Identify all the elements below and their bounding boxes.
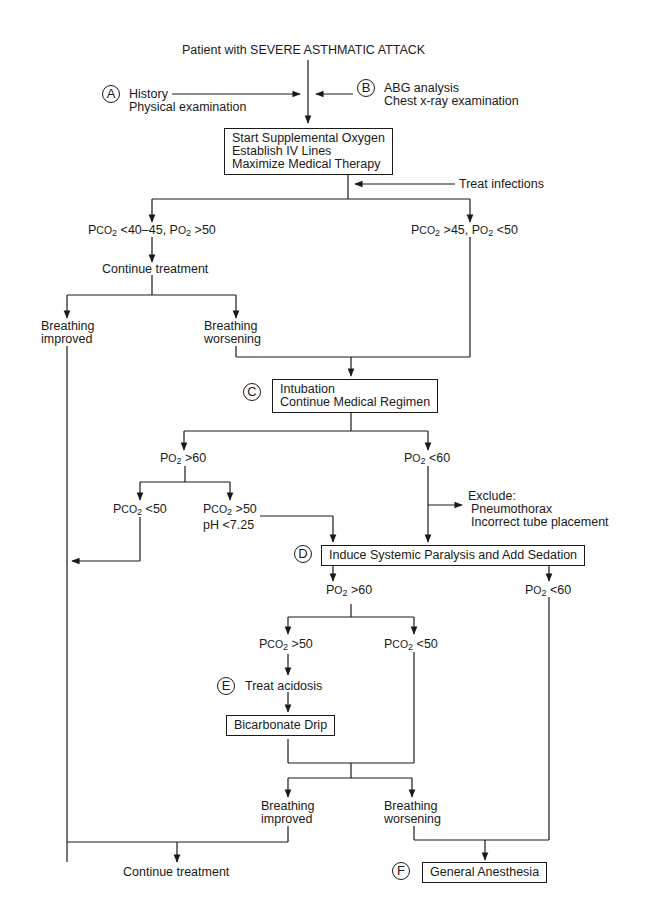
flowchart-title: Patient with SEVERE ASTHMATIC ATTACK xyxy=(182,44,425,57)
condition-pco2-lt-50-b: PCO2 <50 xyxy=(384,638,438,654)
box1-line3: Maximize Medical Therapy xyxy=(232,158,385,171)
condition-pco2-lt-50-a: PCO2 <50 xyxy=(113,503,167,519)
initial-management-box: Start Supplemental Oxygen Establish IV L… xyxy=(224,128,393,175)
condition-po2-lt-60-b: PO2 <60 xyxy=(525,584,571,600)
marker-d: D xyxy=(294,545,312,563)
exclude-list: Exclude: Pneumothorax Incorrect tube pla… xyxy=(468,490,609,529)
marker-c: C xyxy=(243,383,261,401)
condition-po2-lt-60-a: PO2 <60 xyxy=(404,452,450,468)
marker-e: E xyxy=(217,677,235,695)
condition-pco2-gt-50-ph: PCO2 >50 pH <7.25 xyxy=(203,503,257,532)
marker-b: B xyxy=(357,79,375,97)
condition-pco2-gt-45: PCO2 >45, PO2 <50 xyxy=(411,224,518,240)
condition-pco2-lt-40-45: PCO2 <40–45, PO2 >50 xyxy=(88,224,216,240)
breathing-worsening-2: Breathingworsening xyxy=(384,800,441,826)
marker-a: A xyxy=(102,85,120,103)
input-b-line2: Chest x-ray examination xyxy=(384,95,519,108)
condition-po2-gt-60-a: PO2 >60 xyxy=(160,452,206,468)
treat-infections-label: Treat infections xyxy=(459,178,544,191)
marker-f: F xyxy=(392,862,410,880)
treat-acidosis-label: Treat acidosis xyxy=(245,680,322,693)
condition-po2-gt-60-b: PO2 >60 xyxy=(326,584,372,600)
breathing-worsening-1: Breathingworsening xyxy=(204,320,261,346)
condition-pco2-gt-50-b: PCO2 >50 xyxy=(259,638,313,654)
input-a-line2: Physical examination xyxy=(129,101,246,114)
intubation-box: IntubationContinue Medical Regimen xyxy=(272,379,438,413)
paralysis-sedation-box: Induce Systemic Paralysis and Add Sedati… xyxy=(321,545,585,566)
general-anesthesia-box: General Anesthesia xyxy=(422,862,547,883)
breathing-improved-1: Breathingimproved xyxy=(41,320,95,346)
continue-treatment-final: Continue treatment xyxy=(123,866,229,879)
continue-treatment-1: Continue treatment xyxy=(102,263,208,276)
bicarbonate-drip-box: Bicarbonate Drip xyxy=(226,715,335,736)
breathing-improved-2: Breathingimproved xyxy=(261,800,315,826)
